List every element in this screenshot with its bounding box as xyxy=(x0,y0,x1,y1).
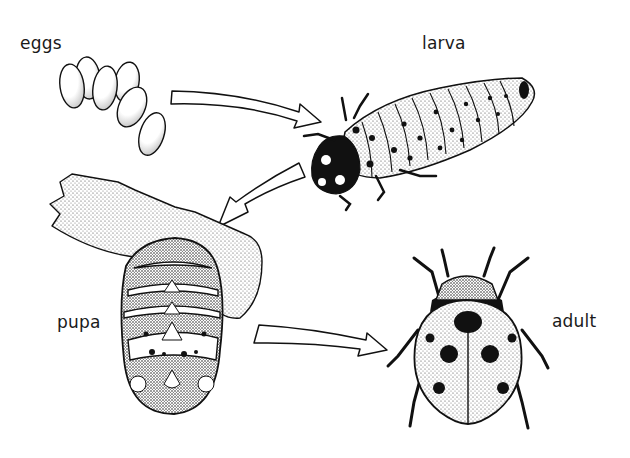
eggs-illustration xyxy=(57,56,170,159)
pupa-illustration xyxy=(121,238,222,414)
label-pupa: pupa xyxy=(57,312,101,332)
adult-illustration xyxy=(388,248,548,428)
label-larva: larva xyxy=(422,33,466,53)
arrow-pupa-to-adult xyxy=(254,325,387,356)
larva-illustration xyxy=(304,78,534,210)
arrow-eggs-to-larva xyxy=(171,91,321,128)
label-adult: adult xyxy=(552,311,596,331)
life-cycle-diagram xyxy=(0,0,630,458)
arrow-larva-to-pupa xyxy=(218,163,305,227)
label-eggs: eggs xyxy=(20,33,62,53)
